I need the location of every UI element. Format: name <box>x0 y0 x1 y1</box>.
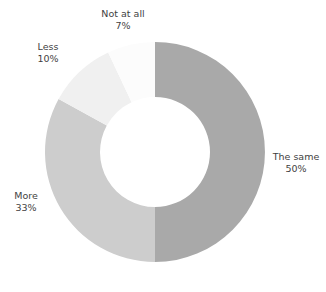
slice-label-not-at-all-name: Not at all <box>82 8 164 20</box>
slice-label-the-same: The same 50% <box>268 151 324 174</box>
slice-label-more: More 33% <box>2 190 50 213</box>
slice-label-more-value: 33% <box>2 202 50 214</box>
slice-label-not-at-all: Not at all 7% <box>82 8 164 31</box>
slice-label-more-name: More <box>2 190 50 202</box>
donut-slice-group <box>45 42 265 262</box>
slice-label-not-at-all-value: 7% <box>82 20 164 32</box>
donut-chart: The same 50% More 33% Less 10% Not at al… <box>0 0 326 292</box>
slice-label-the-same-value: 50% <box>268 163 324 175</box>
slice-label-the-same-name: The same <box>268 151 324 163</box>
slice-label-less-value: 10% <box>22 53 74 65</box>
donut-slice-the-same <box>155 42 265 262</box>
slice-label-less: Less 10% <box>22 41 74 64</box>
slice-label-less-name: Less <box>22 41 74 53</box>
donut-slice-more <box>45 99 155 262</box>
